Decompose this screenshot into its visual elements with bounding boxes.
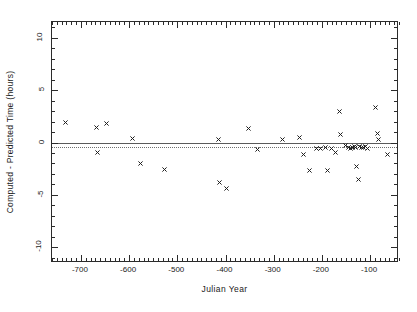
x-axis-tick xyxy=(288,258,289,261)
x-axis-tick xyxy=(346,22,347,25)
x-axis-tick xyxy=(177,22,178,28)
x-axis-tick xyxy=(115,258,116,261)
x-axis-tick xyxy=(240,22,241,25)
y-axis-tick xyxy=(394,184,397,185)
x-axis-tick xyxy=(115,22,116,25)
y-axis-tick xyxy=(52,122,55,123)
x-axis-tick xyxy=(91,258,92,261)
y-axis-tick xyxy=(394,216,397,217)
data-point xyxy=(373,105,378,110)
x-axis-tick xyxy=(187,22,188,25)
x-axis-tick xyxy=(332,258,333,261)
x-axis-tick xyxy=(283,22,284,25)
y-axis-tick xyxy=(394,27,397,28)
y-axis-tick xyxy=(391,143,397,144)
y-axis-tick xyxy=(52,80,55,81)
x-axis-tick xyxy=(86,258,87,261)
x-axis-tick xyxy=(172,22,173,25)
x-axis-tick xyxy=(192,258,193,261)
x-axis-tick xyxy=(172,258,173,261)
x-axis-tick xyxy=(62,22,63,25)
x-axis-tick xyxy=(100,258,101,261)
x-axis-tick xyxy=(307,22,308,25)
scatter-plot-figure: -700-600-500-400-300-200-1001050-5-10 Ju… xyxy=(0,0,417,312)
x-axis-tick xyxy=(119,22,120,25)
x-axis-tick xyxy=(332,22,333,25)
y-axis-tick xyxy=(52,69,55,70)
x-axis-tick xyxy=(192,22,193,25)
data-point xyxy=(95,150,100,155)
x-axis-tick xyxy=(66,22,67,25)
x-axis-tick xyxy=(293,22,294,25)
x-axis-tick xyxy=(105,22,106,25)
y-axis-tick xyxy=(52,38,58,39)
x-axis-tick xyxy=(197,258,198,261)
x-axis-tick xyxy=(206,22,207,25)
x-axis-tick xyxy=(177,255,178,261)
x-axis-tick xyxy=(245,258,246,261)
x-axis-tick xyxy=(307,258,308,261)
y-axis-tick xyxy=(52,90,58,91)
x-axis-tick xyxy=(71,258,72,261)
x-axis-tick xyxy=(235,22,236,25)
x-axis-tick xyxy=(385,22,386,25)
data-point xyxy=(333,150,338,155)
x-axis-tick xyxy=(139,258,140,261)
x-axis-tick xyxy=(385,258,386,261)
y-axis-tick xyxy=(52,258,55,259)
y-axis-tick xyxy=(394,205,397,206)
x-axis-tick xyxy=(129,255,130,261)
x-axis-tick xyxy=(389,22,390,25)
x-axis-tick xyxy=(370,22,371,28)
data-point xyxy=(376,137,381,142)
x-axis-tick xyxy=(216,258,217,261)
y-axis-tick xyxy=(52,59,55,60)
x-axis-tick xyxy=(182,22,183,25)
x-axis-tick xyxy=(221,258,222,261)
y-axis-tick xyxy=(391,195,397,196)
data-point xyxy=(138,161,143,166)
x-axis-tick xyxy=(322,255,323,261)
x-axis-tick xyxy=(341,22,342,25)
x-axis-tick xyxy=(250,22,251,25)
x-axis-tick xyxy=(201,258,202,261)
x-axis-tick xyxy=(187,258,188,261)
data-point xyxy=(280,137,285,142)
x-axis-tick xyxy=(230,22,231,25)
x-axis-tick xyxy=(312,258,313,261)
x-axis-tick xyxy=(254,22,255,25)
x-axis-tick xyxy=(52,22,53,25)
x-axis-tick xyxy=(100,22,101,25)
x-axis-tick xyxy=(226,255,227,261)
data-point xyxy=(217,180,222,185)
data-point xyxy=(323,145,328,150)
x-axis-tick xyxy=(269,258,270,261)
x-axis-tick xyxy=(95,22,96,25)
data-point xyxy=(365,146,370,151)
x-tick-label: -400 xyxy=(216,265,232,274)
x-axis-tick xyxy=(279,22,280,25)
x-axis-title: Julian Year xyxy=(51,284,398,294)
data-point xyxy=(301,152,306,157)
x-axis-tick xyxy=(76,22,77,25)
x-axis-tick xyxy=(399,258,400,261)
data-point xyxy=(325,168,330,173)
x-tick-label: -600 xyxy=(120,265,136,274)
x-axis-tick xyxy=(336,22,337,25)
x-axis-tick xyxy=(360,258,361,261)
x-axis-tick xyxy=(269,22,270,25)
x-axis-tick xyxy=(346,258,347,261)
x-axis-tick xyxy=(351,22,352,25)
x-axis-tick xyxy=(298,22,299,25)
x-tick-label: -100 xyxy=(361,265,377,274)
data-point xyxy=(94,125,99,130)
x-axis-tick xyxy=(288,22,289,25)
x-axis-tick xyxy=(283,258,284,261)
x-axis-tick xyxy=(317,258,318,261)
x-axis-tick xyxy=(81,22,82,28)
x-axis-tick xyxy=(317,22,318,25)
y-axis-tick xyxy=(52,184,55,185)
x-axis-tick xyxy=(86,22,87,25)
y-axis-tick xyxy=(52,247,58,248)
data-point xyxy=(63,120,68,125)
